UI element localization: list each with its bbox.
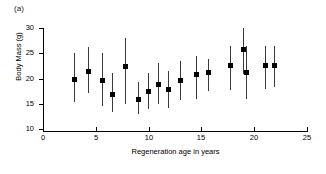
data-point xyxy=(272,63,277,68)
data-point xyxy=(166,87,171,92)
error-bar xyxy=(208,59,209,91)
data-point xyxy=(194,72,199,77)
data-point xyxy=(110,92,115,97)
y-axis-title: Body Mass (g) xyxy=(14,15,23,99)
y-tick-15 xyxy=(39,104,43,105)
y-tick-label-10: 10 xyxy=(14,125,34,133)
y-tick-20 xyxy=(39,79,43,80)
x-tick-label-15: 15 xyxy=(191,134,211,142)
data-point xyxy=(156,82,161,87)
y-axis-line xyxy=(43,28,44,132)
x-tick-label-5: 5 xyxy=(86,134,106,142)
x-tick-label-20: 20 xyxy=(244,134,264,142)
x-tick-15 xyxy=(201,127,202,131)
data-point xyxy=(146,89,151,94)
data-point xyxy=(178,78,183,83)
y-tick-30 xyxy=(39,28,43,29)
plot-area: 1015202530 0510152025 Body Mass (g) Rege… xyxy=(0,0,326,174)
data-point xyxy=(228,63,233,68)
x-tick-label-0: 0 xyxy=(33,134,53,142)
x-tick-5 xyxy=(96,127,97,131)
x-axis-title: Regeneration age in years xyxy=(43,147,308,156)
x-tick-0 xyxy=(43,127,44,131)
data-point xyxy=(86,69,91,74)
data-point xyxy=(244,70,249,75)
data-point xyxy=(100,78,105,83)
x-tick-20 xyxy=(254,127,255,131)
x-tick-label-25: 25 xyxy=(297,134,317,142)
data-point xyxy=(123,64,128,69)
x-tick-10 xyxy=(149,127,150,131)
data-point xyxy=(72,77,77,82)
x-axis-line xyxy=(43,131,308,132)
x-tick-label-10: 10 xyxy=(139,134,159,142)
error-bar xyxy=(230,46,231,90)
x-tick-25 xyxy=(307,127,308,131)
y-tick-label-15: 15 xyxy=(14,100,34,108)
data-point xyxy=(263,63,268,68)
data-point xyxy=(206,70,211,75)
y-tick-25 xyxy=(39,53,43,54)
error-bar xyxy=(196,56,197,99)
figure-panel: (a) 1015202530 0510152025 Body Mass (g) … xyxy=(0,0,326,174)
error-bar xyxy=(125,38,126,104)
data-point xyxy=(136,97,141,102)
